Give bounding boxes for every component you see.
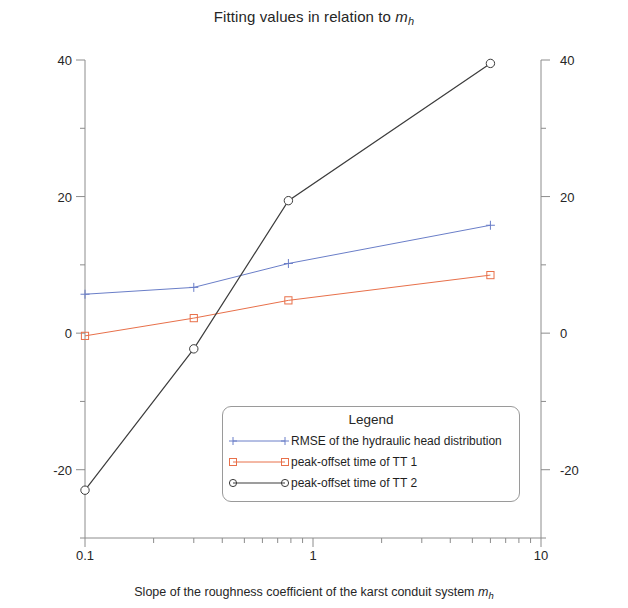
y-axis-left-tick-label: 20 [42,189,72,204]
y-axis-left-tick-labels: 40200-20 [42,60,72,538]
y-axis-right-tick-label: -20 [560,462,579,477]
chart-title-subscript: h [408,15,414,27]
x-axis-title-text: Slope of the roughness coefficient of th… [134,585,478,599]
x-axis-tick-label: 1 [309,548,316,563]
legend-label-series-3: peak-offset time of TT 2 [291,476,417,490]
legend-label-series-1: RMSE of the hydraulic head distribution [291,434,502,448]
x-axis-tick-label: 10 [534,548,548,563]
legend-item-tt1: peak-offset time of TT 1 [223,451,519,472]
legend-title: Legend [223,412,519,427]
y-axis-right-tick-label: 40 [560,53,574,68]
chart-figure: Fitting values in relation to mh Root me… [0,0,628,608]
series-1 [81,221,495,299]
series-2 [81,272,494,340]
series-marker [284,196,292,204]
legend-swatch-series-3 [227,474,291,492]
chart-title: Fitting values in relation to mh [0,8,628,27]
series-line [85,275,490,336]
y-axis-right-tick-label: 20 [560,189,574,204]
legend-item-tt2: peak-offset time of TT 2 [223,472,519,493]
chart-title-text: Fitting values in relation to [214,8,395,25]
y-axis-right-tick-label: 0 [560,326,567,341]
y-axis-right-tick-labels: 40200-20 [560,60,596,538]
series-marker [81,290,90,299]
series-marker [190,345,198,353]
series-marker [81,486,89,494]
legend-swatch-series-2 [227,453,291,471]
chart-title-variable: m [395,8,408,25]
series-marker [284,259,293,268]
y-axis-left-tick-label: 0 [42,326,72,341]
legend-swatch-series-1 [227,432,291,450]
chart-legend: Legend RMSE of the hydraulic head distri… [222,406,520,502]
x-axis-title-subscript: h [488,590,493,601]
series-marker [486,59,494,67]
series-marker [189,283,198,292]
x-axis-tick-labels: 0.1110 [85,548,541,570]
legend-item-rmse: RMSE of the hydraulic head distribution [223,430,519,451]
y-axis-left-tick-label: 40 [42,53,72,68]
x-axis-title: Slope of the roughness coefficient of th… [0,585,628,601]
x-axis-tick-label: 0.1 [76,548,94,563]
legend-label-series-2: peak-offset time of TT 1 [291,455,417,469]
x-axis-title-variable: m [478,585,488,599]
y-axis-left-tick-label: -20 [42,462,72,477]
series-line [85,225,490,294]
series-marker [486,221,495,230]
